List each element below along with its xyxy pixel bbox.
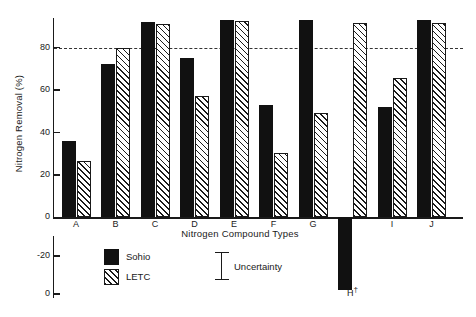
y-tick-label--20: -20 (24, 250, 50, 260)
error-bar-cap-top-icon (215, 252, 229, 253)
bar-letc-B (116, 48, 130, 218)
y-tick-0 (54, 293, 60, 294)
y-axis-line-lower (53, 236, 54, 298)
chart-figure: Nitrogen Removal (%) Nitrogen Compound T… (0, 0, 476, 317)
bar-letc-F (274, 153, 288, 218)
legend-label-letc: LETC (126, 271, 150, 282)
x-category-label-G: G (298, 219, 328, 229)
y-tick--20 (54, 255, 60, 256)
error-bar-icon (221, 252, 222, 280)
x-category-label-E: E (219, 219, 249, 229)
x-category-label-C: C (140, 219, 170, 229)
bar-letc-J (432, 23, 446, 217)
y-tick-label-60: 60 (24, 84, 50, 94)
bar-letc-G (314, 113, 328, 217)
x-axis-label: Nitrogen Compound Types (150, 228, 330, 239)
y-tick-0 (54, 217, 60, 218)
bar-letc-C (156, 24, 170, 217)
bar-sohio-C (141, 22, 155, 217)
bar-sohio-I (378, 107, 392, 217)
y-tick-label-20: 20 (24, 169, 50, 179)
y-tick-label-80: 80 (24, 42, 50, 52)
x-category-label-F: F (259, 219, 289, 229)
bar-sohio-J (417, 20, 431, 217)
footnote-marker: † (354, 285, 358, 294)
bar-sohio-G (299, 20, 313, 217)
bar-sohio-D (180, 58, 194, 217)
x-category-label-D: D (180, 219, 210, 229)
bar-sohio-E (220, 20, 234, 217)
error-bar-cap-bottom-icon (215, 279, 229, 280)
x-category-label-J: J (417, 219, 447, 229)
bar-letc-A (77, 161, 91, 217)
y-axis-label: Nitrogen Removal (%) (13, 54, 24, 194)
uncertainty-label: Uncertainty (234, 261, 282, 272)
y-tick-80 (54, 47, 60, 48)
legend-swatch-letc-icon (104, 269, 119, 285)
y-tick-label-0: 0 (24, 211, 50, 221)
bar-letc-I (393, 78, 407, 217)
bar-sohio-H (338, 217, 352, 290)
y-tick-40 (54, 132, 60, 133)
bar-sohio-B (101, 64, 115, 218)
bar-sohio-A (62, 141, 76, 217)
bar-sohio-F (259, 105, 273, 217)
y-tick-20 (54, 174, 60, 175)
legend-swatch-sohio-icon (104, 249, 119, 265)
bar-letc-D (195, 96, 209, 217)
bar-letc-H (353, 23, 367, 217)
legend-label-sohio: Sohio (126, 251, 150, 262)
x-category-label-H: H† (338, 285, 368, 298)
x-category-label-A: A (61, 219, 91, 229)
x-category-label-B: B (101, 219, 131, 229)
x-category-label-I: I (377, 219, 407, 229)
y-tick-label-40: 40 (24, 127, 50, 137)
y-tick-60 (54, 89, 60, 90)
bar-letc-E (235, 21, 249, 217)
y-tick-label-0: 0 (24, 288, 50, 298)
